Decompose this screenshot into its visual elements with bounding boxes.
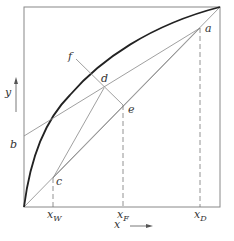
y-arrowhead-icon xyxy=(14,77,18,84)
point-a-label: a xyxy=(205,23,212,34)
point-c-label: c xyxy=(56,176,62,187)
line-a-c xyxy=(53,28,200,178)
point-e-label: e xyxy=(128,104,135,115)
xw-tick-label: xW xyxy=(47,209,61,220)
xf-tick-label: xF xyxy=(117,209,129,220)
y-axis-label: y xyxy=(5,87,11,98)
xd-tick-label: xD xyxy=(194,209,207,220)
x-arrowhead-icon xyxy=(146,224,153,228)
point-d-label: d xyxy=(101,73,108,84)
rectifying-line xyxy=(24,28,200,136)
point-b-label: b xyxy=(10,139,17,150)
diagram-canvas xyxy=(0,0,234,241)
point-f-label: f xyxy=(68,51,72,62)
